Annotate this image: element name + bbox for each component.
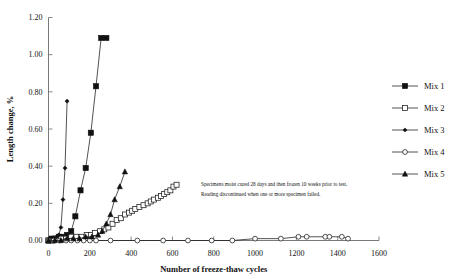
x-axis-title: Number of freeze-thaw cycles — [160, 264, 268, 274]
data-point — [112, 197, 117, 202]
series-mix-3 — [46, 99, 69, 243]
data-point — [108, 212, 113, 217]
data-point — [108, 238, 113, 243]
x-tick-label: 1200 — [288, 249, 304, 258]
y-tick-label: 1.00 — [29, 50, 43, 59]
freeze-thaw-length-change-chart: 0.000.200.400.600.801.001.20020040060080… — [0, 0, 470, 279]
legend-marker — [402, 83, 407, 88]
x-tick-label: 0 — [47, 249, 51, 258]
data-point — [339, 234, 344, 239]
data-point — [346, 236, 351, 241]
data-point — [73, 214, 78, 219]
legend-marker — [403, 128, 407, 132]
y-axis-title: Length change, % — [5, 96, 15, 162]
data-point — [65, 99, 69, 103]
data-point — [230, 238, 235, 243]
data-point — [117, 184, 122, 189]
x-tick-label: 400 — [125, 249, 137, 258]
data-point — [78, 188, 83, 193]
series-line — [49, 101, 68, 240]
data-point — [186, 238, 191, 243]
legend-entry-mix-5[interactable]: Mix 5 — [392, 169, 445, 179]
chart-canvas: 0.000.200.400.600.801.001.20020040060080… — [0, 0, 470, 279]
legend-marker — [403, 150, 408, 155]
data-point — [63, 166, 67, 170]
y-tick-label: 0.60 — [29, 125, 43, 134]
y-tick-label: 1.20 — [29, 13, 43, 22]
legend-entry-mix-1[interactable]: Mix 1 — [392, 81, 445, 91]
legend-label: Mix 1 — [424, 81, 445, 91]
data-point — [296, 234, 301, 239]
data-point — [135, 238, 140, 243]
x-tick-label: 200 — [84, 249, 96, 258]
legend-label: Mix 5 — [424, 169, 445, 179]
data-point — [278, 236, 283, 241]
data-point — [99, 35, 104, 40]
legend-label: Mix 3 — [424, 125, 445, 135]
series-line — [49, 38, 107, 241]
chart-annotation: Specimens moist cured 28 days and then f… — [201, 181, 347, 187]
data-point — [253, 236, 258, 241]
x-tick-label: 1600 — [371, 249, 387, 258]
x-tick-label: 600 — [166, 249, 178, 258]
y-tick-label: 0.40 — [29, 162, 43, 171]
legend-entry-mix-4[interactable]: Mix 4 — [392, 147, 445, 157]
legend-marker — [403, 106, 408, 111]
data-point — [304, 234, 309, 239]
data-point — [174, 182, 179, 187]
x-tick-label: 800 — [208, 249, 220, 258]
data-point — [104, 221, 109, 226]
x-tick-label: 1000 — [247, 249, 263, 258]
data-point — [122, 169, 127, 174]
y-tick-label: 0.20 — [29, 199, 43, 208]
series-mix-5 — [46, 169, 128, 243]
data-point — [59, 225, 63, 229]
data-point — [88, 130, 93, 135]
y-tick-label: 0.00 — [29, 236, 43, 245]
chart-annotation: Reading discontinued when one or more sp… — [201, 191, 320, 197]
legend-entry-mix-3[interactable]: Mix 3 — [392, 125, 445, 135]
series-mix-1 — [46, 35, 109, 243]
data-point — [83, 165, 88, 170]
data-point — [327, 234, 332, 239]
data-point — [93, 84, 98, 89]
legend-label: Mix 2 — [424, 103, 445, 113]
data-point — [104, 35, 109, 40]
data-point — [61, 198, 65, 202]
legend-label: Mix 4 — [424, 147, 445, 157]
data-point — [209, 238, 214, 243]
data-point — [161, 238, 166, 243]
legend-entry-mix-2[interactable]: Mix 2 — [392, 103, 445, 113]
y-tick-label: 0.80 — [29, 88, 43, 97]
data-point — [69, 229, 74, 234]
x-tick-label: 1400 — [330, 249, 346, 258]
